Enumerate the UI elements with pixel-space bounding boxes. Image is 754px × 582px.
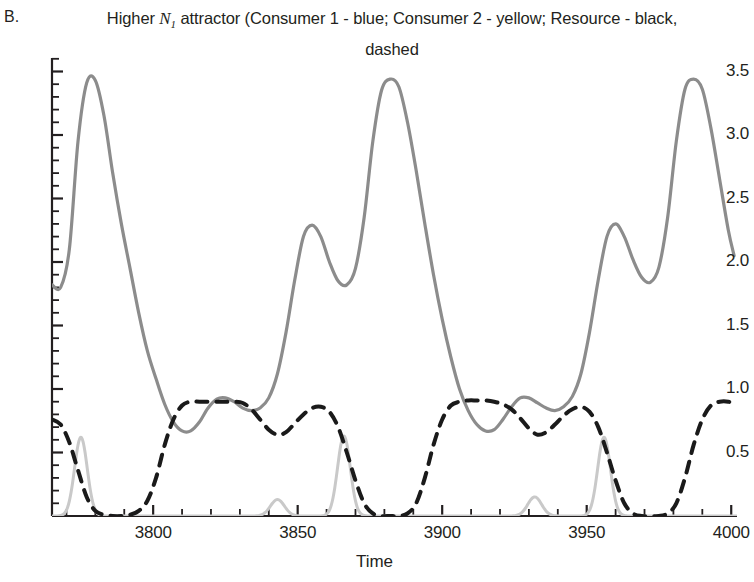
y-tick-label: 2.0	[705, 251, 749, 271]
y-tick-label: 3.5	[705, 61, 749, 81]
series-resource	[52, 400, 734, 516]
x-tick-label: 3950	[547, 523, 627, 543]
series-group	[52, 76, 737, 516]
series-consumer-1	[52, 76, 734, 432]
axes-group	[52, 58, 737, 516]
x-axis-title: Time	[0, 552, 749, 572]
x-tick-label: 4000	[691, 523, 754, 543]
y-tick-label: 2.5	[705, 188, 749, 208]
x-tick-label: 3900	[402, 523, 482, 543]
x-tick-label: 3850	[258, 523, 338, 543]
y-tick-label: 0.5	[705, 442, 749, 462]
y-tick-label: 3.0	[705, 124, 749, 144]
y-tick-label: 1.0	[705, 378, 749, 398]
x-tick-label: 3800	[113, 523, 193, 543]
y-tick-label: 1.5	[705, 315, 749, 335]
